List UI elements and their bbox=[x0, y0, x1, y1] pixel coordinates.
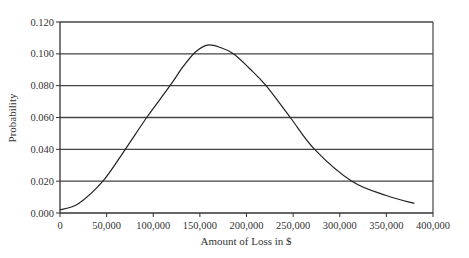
x-tick-label: 300,000 bbox=[323, 220, 357, 231]
y-tick-label: 0.080 bbox=[30, 80, 54, 91]
y-tick-label: 0.120 bbox=[30, 17, 54, 28]
y-tick-label: 0.060 bbox=[30, 112, 54, 123]
x-tick-label: 200,000 bbox=[229, 220, 263, 231]
x-tick-label: 0 bbox=[57, 220, 62, 231]
y-axis-title: Probability bbox=[6, 93, 18, 142]
x-tick-label: 100,000 bbox=[136, 220, 170, 231]
x-tick-label: 50,000 bbox=[92, 220, 121, 231]
probability-curve bbox=[60, 45, 414, 210]
y-axis-ticks: 0.0000.0200.0400.0600.0800.1000.120 bbox=[30, 17, 60, 219]
y-tick-label: 0.020 bbox=[30, 176, 54, 187]
x-tick-label: 150,000 bbox=[183, 220, 217, 231]
horizontal-gridlines bbox=[60, 22, 433, 181]
y-tick-label: 0.000 bbox=[30, 208, 54, 219]
x-tick-label: 250,000 bbox=[276, 220, 310, 231]
y-tick-label: 0.040 bbox=[30, 144, 54, 155]
x-axis-ticks: 050,000100,000150,000200,000250,000300,0… bbox=[57, 213, 450, 231]
x-tick-label: 350,000 bbox=[369, 220, 403, 231]
y-tick-label: 0.100 bbox=[30, 48, 54, 59]
x-tick-label: 400,000 bbox=[416, 220, 450, 231]
x-axis-title: Amount of Loss in $ bbox=[200, 235, 292, 247]
loss-probability-chart: 0.0000.0200.0400.0600.0800.1000.120 050,… bbox=[0, 0, 469, 258]
